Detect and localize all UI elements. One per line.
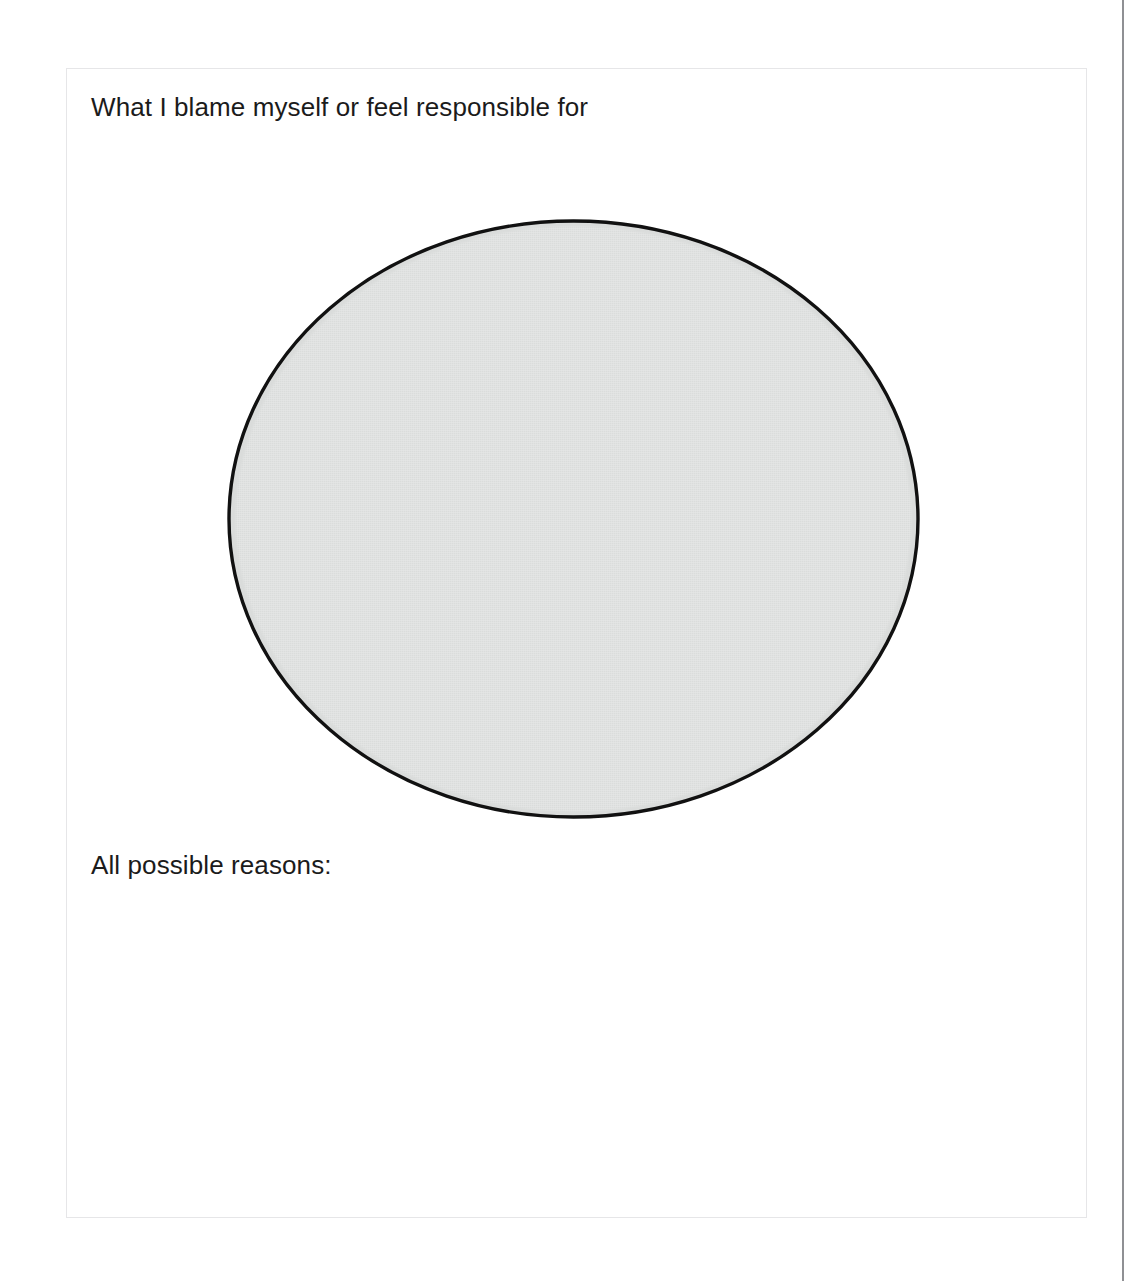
ellipse-shape-icon	[227, 219, 920, 819]
page-edge-rule	[1122, 0, 1124, 1281]
reasons-writing-area[interactable]	[91, 897, 1062, 1197]
prompt-secondary-label: All possible reasons:	[91, 849, 332, 881]
prompt-primary-label: What I blame myself or feel responsible …	[91, 91, 588, 123]
worksheet-box: What I blame myself or feel responsible …	[66, 68, 1087, 1218]
blame-response-ellipse[interactable]	[227, 219, 920, 819]
clipped-top-text	[0, 0, 1100, 5]
worksheet-page: What I blame myself or feel responsible …	[0, 0, 1143, 1281]
